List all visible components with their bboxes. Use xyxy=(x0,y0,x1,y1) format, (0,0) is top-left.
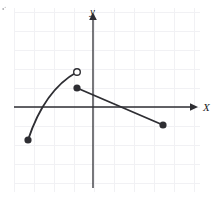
coordinate-plane-graphic: X y xyxy=(0,0,215,202)
x-axis-label: X xyxy=(202,101,211,113)
segment-left-endpoint-filled-dot xyxy=(73,84,80,91)
y-axis-label: y xyxy=(89,5,95,17)
axis-lines xyxy=(14,20,190,188)
corner-speck-mark xyxy=(2,7,6,10)
arc-right-endpoint-open-dot xyxy=(74,69,81,76)
arc-branch-curve xyxy=(28,72,77,140)
segment-right-endpoint-filled-dot xyxy=(159,121,166,128)
arc-left-endpoint-filled-dot xyxy=(24,136,31,143)
graph-figure: X y xyxy=(0,0,215,202)
